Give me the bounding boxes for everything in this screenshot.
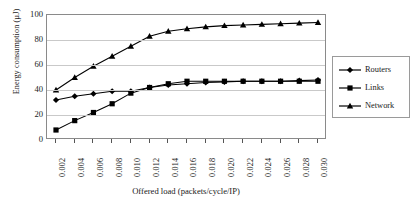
data-point-marker [109,53,115,59]
legend-item-links[interactable]: Links [337,80,409,96]
series-line [56,81,318,130]
x-tick-label: 0.006 [96,158,105,177]
data-point-marker [53,97,59,103]
data-point-marker [72,74,78,80]
y-tick-label: 100 [17,10,43,19]
x-tick-label: 0.004 [77,158,86,177]
x-tick-label: 0.008 [115,158,124,177]
y-tick-label: 0 [17,135,43,144]
x-tick-mark [317,139,318,143]
data-point-marker [110,101,115,106]
data-point-marker [315,79,320,84]
x-tick-mark [261,139,262,143]
plot-area [46,14,326,139]
x-tick-label: 0.026 [283,158,292,177]
x-tick-label: 0.002 [58,158,67,177]
x-tick-label: 0.010 [133,158,142,177]
x-tick-label: 0.018 [208,158,217,177]
x-tick-label: 0.012 [152,158,161,177]
x-tick-mark [149,139,150,143]
x-tick-mark [223,139,224,143]
y-tick-label: 60 [17,60,43,69]
x-tick-mark [186,139,187,143]
legend-item-routers[interactable]: Routers [337,62,409,78]
x-tick-mark [167,139,168,143]
series-canvas [47,15,327,140]
legend-item-network[interactable]: Network [337,98,409,114]
x-tick-label: 0.016 [189,158,198,177]
y-tick-label: 80 [17,35,43,44]
diamond-marker-icon [337,62,363,78]
data-point-marker [297,79,302,84]
x-tick-mark [298,139,299,143]
x-tick-label: 0.014 [171,158,180,177]
chart-legend: RoutersLinksNetwork [332,56,410,118]
gridline [47,40,325,41]
x-tick-mark [74,139,75,143]
x-tick-mark [111,139,112,143]
x-axis-title: Offered load (packets/cycle/IP) [46,186,326,196]
data-point-marker [222,79,227,84]
x-tick-mark [55,139,56,143]
gridline [47,90,325,91]
data-point-marker [128,43,134,49]
data-point-marker [166,81,171,86]
x-tick-label: 0.020 [227,158,236,177]
data-point-marker [53,127,58,132]
x-tick-mark [92,139,93,143]
legend-label: Links [365,83,384,92]
data-point-marker [347,67,353,73]
triangle-marker-icon [337,98,363,114]
x-tick-mark [130,139,131,143]
legend-label: Network [365,101,394,110]
data-point-marker [241,79,246,84]
gridline [47,65,325,66]
x-tick-label: 0.022 [246,158,255,177]
data-point-marker [128,91,133,96]
y-tick-label: 20 [17,110,43,119]
x-axis-tick-labels: 0.0020.0040.0060.0080.0100.0120.0140.016… [46,145,326,179]
x-tick-mark [205,139,206,143]
data-point-marker [184,79,189,84]
chart-figure: Energy consumption (µJ) 020406080100 0.0… [0,0,412,207]
gridline [47,115,325,116]
square-marker-icon [337,80,363,96]
data-point-marker [72,118,77,123]
x-tick-mark [242,139,243,143]
y-axis-tick-labels: 020406080100 [14,0,43,207]
data-point-marker [259,79,264,84]
x-tick-label: 0.028 [302,158,311,177]
data-point-marker [90,91,96,97]
data-point-marker [347,85,352,90]
legend-label: Routers [365,65,391,74]
data-point-marker [72,93,78,99]
x-tick-mark [280,139,281,143]
x-tick-label: 0.024 [264,158,273,177]
x-tick-label: 0.030 [320,158,329,177]
y-tick-label: 40 [17,85,43,94]
data-point-marker [278,79,283,84]
data-point-marker [203,79,208,84]
